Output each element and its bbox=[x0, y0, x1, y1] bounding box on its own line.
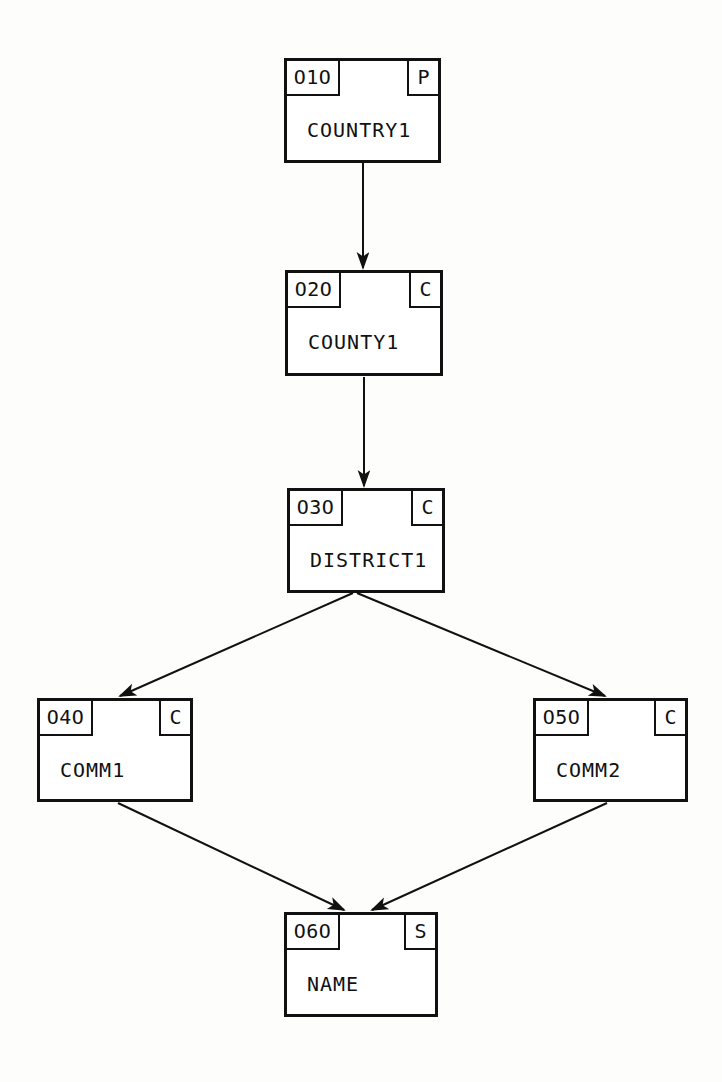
edge-comm1-to-name bbox=[118, 803, 344, 910]
node-label-district1: DISTRICT1 bbox=[290, 543, 442, 577]
node-flag-district1: C bbox=[411, 491, 442, 526]
edge-district1-to-comm2 bbox=[357, 593, 605, 696]
node-id-country1: O1O bbox=[287, 61, 340, 96]
node-comm1[interactable]: O4O C COMM1 bbox=[37, 698, 193, 802]
node-flag-county1: C bbox=[409, 273, 440, 308]
node-id-comm2: O5O bbox=[536, 701, 589, 736]
node-id-district1: O3O bbox=[290, 491, 343, 526]
node-flag-country1: P bbox=[407, 61, 438, 96]
node-flag-comm1: C bbox=[159, 701, 190, 736]
node-county1[interactable]: O2O C COUNTY1 bbox=[285, 270, 443, 376]
node-district1[interactable]: O3O C DISTRICT1 bbox=[287, 488, 445, 593]
edge-district1-to-comm1 bbox=[120, 593, 353, 696]
node-flag-comm2: C bbox=[654, 701, 685, 736]
node-country1[interactable]: O1O P COUNTRY1 bbox=[284, 58, 441, 163]
node-id-county1: O2O bbox=[288, 273, 341, 308]
node-id-name: O6O bbox=[287, 915, 340, 950]
node-name[interactable]: O6O S NAME bbox=[284, 912, 438, 1017]
node-label-comm2: COMM2 bbox=[536, 753, 685, 787]
node-label-name: NAME bbox=[287, 967, 435, 1001]
node-flag-name: S bbox=[404, 915, 435, 950]
node-label-country1: COUNTRY1 bbox=[287, 113, 438, 147]
node-label-comm1: COMM1 bbox=[40, 753, 190, 787]
node-comm2[interactable]: O5O C COMM2 bbox=[533, 698, 688, 802]
node-label-county1: COUNTY1 bbox=[288, 325, 440, 359]
diagram-canvas: O1O P COUNTRY1 O2O C COUNTY1 O3O C DISTR… bbox=[0, 0, 722, 1082]
node-id-comm1: O4O bbox=[40, 701, 93, 736]
edge-comm2-to-name bbox=[372, 803, 607, 910]
